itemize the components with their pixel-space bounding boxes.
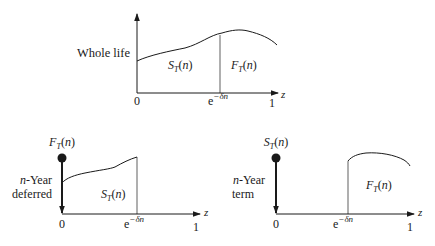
axis-label-z: z (203, 206, 209, 218)
top-label: FT(n) (48, 135, 75, 151)
panel-n-year-deferred: FT(n) n-Year deferred ST(n) 0 e−δn 1 z (12, 135, 209, 234)
axis-label-z: z (417, 206, 423, 218)
density-curve (137, 30, 277, 61)
tick-0: 0 (59, 217, 65, 231)
panel-label: Whole life (77, 46, 131, 60)
panel-label: n-Year (233, 173, 265, 187)
insurance-diagram: Whole life ST(n) FT(n) 0 e−δn 1 z FT(n) … (0, 0, 435, 246)
tick-0: 0 (134, 94, 140, 108)
region-label-failure: FT(n) (365, 178, 392, 194)
panel-label: n-Year (20, 173, 52, 187)
top-label: ST(n) (264, 135, 288, 151)
panel-label-line2: term (232, 187, 255, 201)
density-curve (348, 153, 410, 166)
tick-1: 1 (269, 96, 275, 110)
tick-e-delta-n: e−δn (333, 214, 354, 231)
region-label-survival: ST(n) (101, 187, 125, 203)
tick-1: 1 (193, 220, 199, 234)
panel-label-line2: deferred (12, 187, 52, 201)
panel-whole-life: Whole life ST(n) FT(n) 0 e−δn 1 z (77, 14, 286, 110)
density-curve (62, 157, 137, 183)
panel-n-year-term: ST(n) n-Year term FT(n) 0 e−δn 1 z (232, 135, 423, 234)
tick-1: 1 (407, 220, 413, 234)
tick-e-delta-n: e−δn (208, 91, 229, 108)
region-label-survival: ST(n) (168, 58, 192, 74)
region-label-failure: FT(n) (230, 58, 257, 74)
tick-e-delta-n: e−δn (124, 214, 145, 231)
axis-label-z: z (280, 88, 286, 100)
tick-0: 0 (273, 217, 279, 231)
